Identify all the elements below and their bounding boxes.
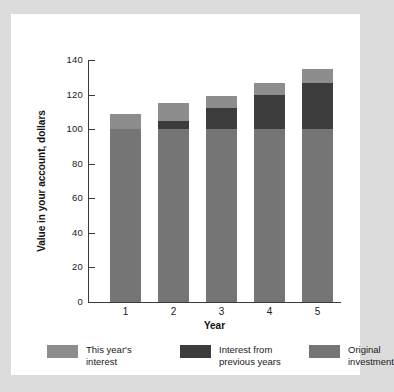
bar-segment [158,103,189,120]
x-axis-tick-label: 1 [106,306,146,317]
legend-item[interactable]: This year's interest [47,344,132,367]
y-axis-tick [88,267,95,268]
bar-year-1 [110,60,141,302]
bar-segment [254,129,285,302]
bar-segment [158,129,189,302]
bar-segment [206,108,237,129]
y-axis-tick-value: 120 [37,89,83,100]
legend-label: Interest from previous years [219,344,281,367]
y-axis-tick-label: 80 [37,158,83,170]
x-axis-tick-label: 2 [154,306,194,317]
chart-figure: Value in your account, dollars 140120100… [11,14,360,375]
bar-year-3 [206,60,237,302]
y-axis-tick [88,95,95,96]
y-axis-tick [88,60,95,61]
bar-segment [254,83,285,95]
x-axis-tick-label: 3 [202,306,242,317]
y-axis-tick [88,164,95,165]
bar-year-5 [302,60,333,302]
bar-segment [206,96,237,108]
legend-item[interactable]: Interest from previous years [180,344,281,367]
y-axis-tick [88,198,95,199]
y-axis-tick-value: 0 [37,296,83,307]
y-axis-tick-label: 20 [37,261,83,273]
y-axis-tick-label: 140 [37,54,83,66]
bar-segment [302,129,333,302]
bar-segment [302,69,333,83]
y-axis-tick [88,129,95,130]
y-axis-tick-value: 60 [37,192,83,203]
y-axis-tick-value: 140 [37,54,83,65]
legend-swatch [180,345,211,358]
y-axis-tick-label: 40 [37,227,83,239]
y-axis-tick-label: 120 [37,89,83,101]
y-axis-tick-value: 80 [37,158,83,169]
bar-segment [206,129,237,302]
bar-segment [302,83,333,130]
bar-year-2 [158,60,189,302]
y-axis-tick [88,233,95,234]
y-axis-tick-label: 0 [37,296,83,308]
y-axis-tick-label: 100 [37,123,83,135]
chart-legend: This year's interestInterest from previo… [47,344,347,374]
x-axis-tick-label: 4 [250,306,290,317]
y-axis-tick-value: 20 [37,261,83,272]
bar-year-4 [254,60,285,302]
legend-item[interactable]: Original investment [309,344,394,367]
legend-label: Original investment [348,344,394,367]
legend-swatch [309,345,340,358]
x-axis-line [88,302,341,303]
legend-swatch [47,345,78,358]
y-axis-tick-label: 60 [37,192,83,204]
legend-label: This year's interest [86,344,132,367]
x-axis-tick-label: 5 [298,306,338,317]
bar-segment [254,95,285,130]
bar-segment [110,129,141,302]
x-axis-title: Year [88,320,341,331]
y-axis-tick-value: 40 [37,227,83,238]
bar-segment [158,121,189,130]
y-axis-tick-value: 100 [37,123,83,134]
bar-segment [110,114,141,130]
